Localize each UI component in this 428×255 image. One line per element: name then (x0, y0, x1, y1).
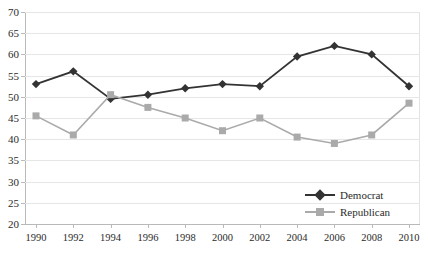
data-point-square (219, 127, 226, 134)
data-point-square (406, 100, 413, 107)
data-point-diamond (144, 90, 152, 98)
data-point-square (294, 134, 301, 141)
series-line (36, 95, 409, 144)
data-point-square (144, 104, 151, 111)
data-point-diamond (218, 80, 226, 88)
data-point-diamond (330, 42, 338, 50)
data-point-square (331, 140, 338, 147)
legend-item-democrat: Democrat (305, 186, 390, 203)
data-point-diamond (181, 84, 189, 92)
data-point-diamond (32, 80, 40, 88)
series-republican (33, 91, 413, 147)
data-point-square (107, 91, 114, 98)
data-point-square (368, 131, 375, 138)
data-point-square (256, 115, 263, 122)
data-point-square (33, 112, 40, 119)
legend-label-republican: Republican (340, 206, 390, 218)
republican-swatch-icon (305, 206, 335, 218)
series-line (36, 46, 409, 99)
democrat-swatch-icon (305, 189, 335, 201)
legend-item-republican: Republican (305, 203, 390, 220)
legend: Democrat Republican (305, 186, 390, 220)
legend-label-democrat: Democrat (340, 189, 383, 201)
data-point-square (182, 115, 189, 122)
line-chart: 7065605550454035302520 19901992199419961… (0, 0, 428, 255)
data-point-square (70, 131, 77, 138)
series-democrat (32, 42, 413, 103)
